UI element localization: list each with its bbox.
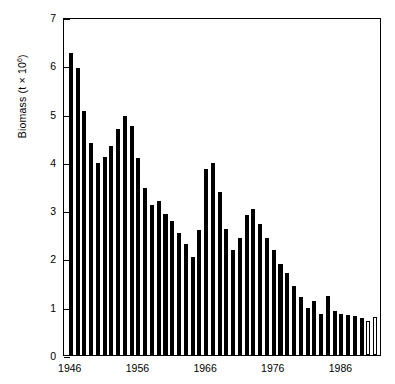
x-axis-tick-label: 1956 (117, 363, 157, 374)
chart-figure: Biomass (t × 106) 01234567 1946195619661… (0, 0, 395, 384)
y-axis-tick-label: 1 (22, 303, 56, 313)
y-axis-tick (64, 116, 70, 117)
bar (285, 273, 289, 355)
bar (326, 296, 330, 355)
y-axis-tick-label: 6 (22, 61, 56, 71)
x-axis-tick-label: 1966 (185, 363, 225, 374)
bar (278, 264, 282, 355)
bar (292, 286, 296, 355)
bar (177, 233, 181, 355)
bar (312, 301, 316, 355)
bar (69, 53, 73, 355)
bar (346, 315, 350, 355)
y-axis-title-tail: ) (16, 54, 28, 58)
x-axis-tick-label: 1986 (320, 363, 360, 374)
bar (211, 163, 215, 355)
plot-area (63, 18, 381, 356)
x-axis-tick (138, 349, 139, 355)
bar (333, 311, 337, 355)
bar (136, 158, 140, 355)
y-axis-tick (64, 164, 70, 165)
bar (184, 244, 188, 355)
bar (143, 188, 147, 355)
bar (366, 321, 370, 355)
y-axis-tick (64, 309, 70, 310)
bar (76, 68, 80, 355)
y-axis-tick (64, 67, 70, 68)
x-axis-tick (274, 349, 275, 355)
y-axis-tick-label: 0 (22, 351, 56, 361)
y-axis-tick-label: 2 (22, 254, 56, 264)
bar (103, 157, 107, 355)
bar (163, 214, 167, 355)
bar (109, 146, 113, 355)
x-axis-tick (71, 349, 72, 355)
bar (306, 308, 310, 355)
bars-layer (64, 19, 380, 355)
bar (299, 297, 303, 355)
x-axis-tick (341, 349, 342, 355)
bar (191, 257, 195, 355)
y-axis-title: Biomass (t × 106) (16, 36, 29, 156)
bar (353, 316, 357, 355)
bar (130, 126, 134, 355)
bar (245, 215, 249, 355)
x-axis-tick-label: 1946 (50, 363, 90, 374)
y-axis-tick (64, 212, 70, 213)
bar (231, 250, 235, 355)
bar (116, 129, 120, 355)
bar (170, 221, 174, 355)
y-axis-tick-label: 5 (22, 110, 56, 120)
y-axis-tick (64, 357, 70, 358)
bar (150, 205, 154, 355)
bar (197, 230, 201, 355)
bar (224, 229, 228, 355)
bar (96, 163, 100, 355)
x-axis-tick-label: 1976 (253, 363, 293, 374)
bar (373, 317, 377, 355)
y-axis-tick (64, 19, 70, 20)
bar (265, 238, 269, 355)
y-axis-tick-label: 7 (22, 13, 56, 23)
bar (123, 116, 127, 355)
bar (238, 238, 242, 355)
y-axis-tick-label: 4 (22, 158, 56, 168)
bar (82, 111, 86, 355)
y-axis-tick (64, 260, 70, 261)
bar (272, 250, 276, 355)
bar (360, 318, 364, 355)
y-axis-tick-label: 3 (22, 206, 56, 216)
bar (319, 314, 323, 355)
bar (218, 192, 222, 355)
x-axis-tick (206, 349, 207, 355)
bar (258, 224, 262, 355)
y-axis-title-base: Biomass (t × 10 (16, 62, 28, 138)
bar (204, 169, 208, 355)
bar (157, 201, 161, 355)
bar (89, 143, 93, 355)
bar (251, 209, 255, 355)
